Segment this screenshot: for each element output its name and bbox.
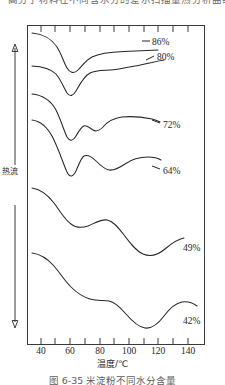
series-label-80: 80% xyxy=(146,52,175,62)
x-tick-label: 100 xyxy=(122,346,137,355)
x-tick-labels: 40 60 80 100 120 140 xyxy=(36,346,195,355)
curve-64 xyxy=(32,120,161,176)
curve-86 xyxy=(32,33,158,72)
y-axis-label-text: 热流 xyxy=(0,168,20,177)
x-tick-label: 140 xyxy=(181,346,196,355)
dsc-chart: 40 60 80 100 120 140 xyxy=(0,0,225,355)
x-axis-label: 温度/℃ xyxy=(0,357,225,370)
curve-72 xyxy=(32,94,160,140)
curve-80 xyxy=(32,60,164,95)
heat-flow-arrow xyxy=(12,44,18,328)
series-label-text: 86% xyxy=(152,37,170,47)
figure-caption: 图 6-35 米淀粉不同水分含量 xyxy=(0,373,225,385)
figure-root: 高分子材料在不同含水分的差示扫描量热分析曲线 xyxy=(0,0,225,385)
series-label-text: 49% xyxy=(183,243,201,253)
series-label-text: 42% xyxy=(183,316,201,326)
bottom-tick-marks xyxy=(41,338,188,344)
series-label-text: 80% xyxy=(157,52,175,62)
curve-42 xyxy=(32,253,197,328)
y-axis-label: 热流 xyxy=(0,168,20,177)
curve-49 xyxy=(32,188,184,255)
x-tick-label: 40 xyxy=(36,346,46,355)
x-tick-label: 120 xyxy=(151,346,166,355)
series-label-64: 64% xyxy=(152,166,181,176)
series-label-text: 64% xyxy=(163,166,181,176)
series-label-49: 49% xyxy=(183,243,201,253)
plot-frame xyxy=(28,26,205,345)
series-label-86: 86% xyxy=(142,37,170,47)
series-label-text: 72% xyxy=(163,120,181,130)
x-tick-label: 60 xyxy=(65,346,75,355)
top-tick-marks xyxy=(41,26,188,32)
x-tick-label: 80 xyxy=(95,346,105,355)
series-label-42: 42% xyxy=(183,316,201,326)
series-label-72: 72% xyxy=(152,120,181,130)
